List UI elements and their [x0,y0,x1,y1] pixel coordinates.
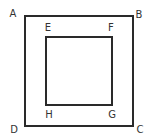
square-diagram: A B C D E F G H [0,0,151,140]
inner-square-efgh [45,36,113,106]
vertex-label-h: H [45,110,53,120]
vertex-label-f: F [108,23,114,33]
vertex-label-b: B [136,10,143,20]
vertex-label-a: A [10,9,17,19]
vertex-label-g: G [108,110,116,120]
vertex-label-d: D [10,125,18,135]
vertex-label-c: C [137,125,144,135]
vertex-label-e: E [45,23,51,33]
